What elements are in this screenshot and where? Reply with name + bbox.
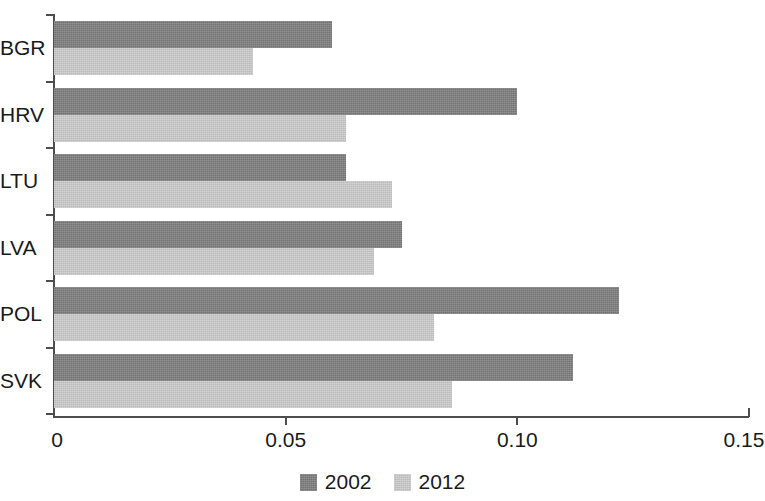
y-label-svk: SVK — [0, 369, 46, 393]
bar-ltu-2012 — [54, 181, 392, 208]
legend-swatch-2012 — [394, 474, 411, 491]
plot-area — [54, 14, 749, 415]
bar-chart-figure: BGRHRVLTULVAPOLSVK 00.050.100.15 2002201… — [0, 0, 765, 501]
y-tick-svk — [46, 347, 54, 349]
y-tick-lva — [46, 214, 54, 216]
y-label-ltu: LTU — [0, 169, 46, 193]
y-tick-bgr — [46, 14, 54, 16]
y-tick-pol — [46, 280, 54, 282]
x-tick-0 — [53, 408, 55, 417]
bar-pol-2012 — [54, 314, 434, 341]
x-tick-0-15 — [748, 408, 750, 417]
x-tick-0-05 — [285, 416, 287, 425]
y-label-bgr: BGR — [0, 36, 46, 60]
bar-lva-2012 — [54, 248, 374, 275]
legend-label-2012: 2012 — [419, 470, 466, 494]
bar-bgr-2002 — [54, 21, 332, 48]
x-axis-line — [53, 416, 749, 418]
y-label-lva: LVA — [0, 236, 46, 260]
y-label-hrv: HRV — [0, 103, 46, 127]
bar-ltu-2002 — [54, 154, 346, 181]
y-label-pol: POL — [0, 302, 46, 326]
bar-svk-2002 — [54, 354, 573, 381]
legend-swatch-2002 — [300, 474, 317, 491]
legend-item-2012: 2012 — [394, 470, 466, 494]
legend-label-2002: 2002 — [325, 470, 372, 494]
chart-legend: 20022012 — [0, 470, 765, 494]
x-tick-label-0-15: 0.15 — [724, 428, 765, 452]
bar-svk-2012 — [54, 381, 452, 408]
bar-hrv-2012 — [54, 115, 346, 142]
y-tick-ltu — [46, 147, 54, 149]
x-tick-0-10 — [516, 416, 518, 425]
x-tick-label-0-10: 0.10 — [497, 428, 538, 452]
legend-item-2002: 2002 — [300, 470, 372, 494]
x-tick-label-0-05: 0.05 — [265, 428, 306, 452]
bar-lva-2002 — [54, 221, 402, 248]
bar-hrv-2002 — [54, 88, 517, 115]
y-tick-hrv — [46, 81, 54, 83]
bar-bgr-2012 — [54, 48, 253, 75]
bar-pol-2002 — [54, 287, 619, 314]
x-tick-label-0: 0 — [51, 428, 63, 452]
